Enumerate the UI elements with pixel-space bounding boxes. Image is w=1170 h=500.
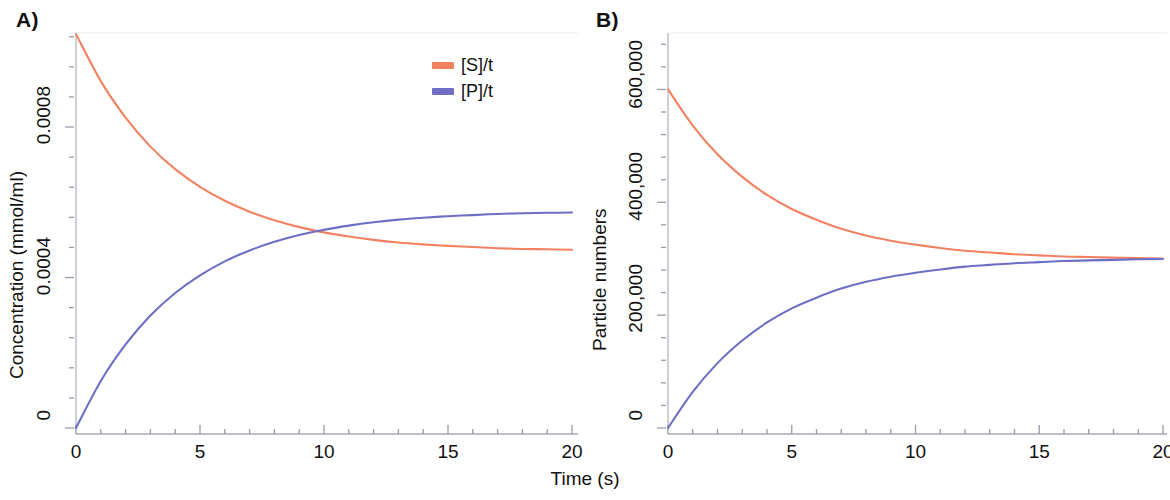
b-xtick-15: 15	[1009, 441, 1069, 463]
figure-container: A) Concentration (mmol/ml) 0 0.0004 0.00…	[0, 0, 1170, 500]
panel-a-plot-area	[0, 0, 585, 500]
panel-b-y-ticks	[657, 44, 666, 428]
panel-a-curve-product	[76, 212, 572, 428]
legend-label-p: [P]/t	[461, 82, 493, 100]
a-xtick-5: 5	[170, 441, 230, 463]
legend-item-p[interactable]: [P]/t	[432, 78, 493, 104]
legend-item-s[interactable]: [S]/t	[432, 52, 493, 78]
b-xtick-5: 5	[762, 441, 822, 463]
panel-b-x-ticks	[668, 425, 1163, 434]
b-xtick-20: 20	[1133, 441, 1170, 463]
legend-swatch-p	[432, 88, 454, 95]
panel-a-y-ticks	[65, 37, 74, 428]
a-xtick-10: 10	[294, 441, 354, 463]
panel-b-svg	[585, 0, 1170, 500]
panel-a: A) Concentration (mmol/ml) 0 0.0004 0.00…	[0, 0, 585, 500]
legend-swatch-s	[432, 62, 454, 69]
panel-a-legend: [S]/t [P]/t	[432, 52, 493, 104]
b-xtick-10: 10	[886, 441, 946, 463]
a-xtick-0: 0	[46, 441, 106, 463]
panel-b: B) Particle numbers 0 200,000 400,000 60…	[585, 0, 1170, 500]
panel-a-svg	[0, 0, 585, 500]
a-xtick-15: 15	[418, 441, 478, 463]
panel-b-curve-substrate	[668, 89, 1163, 258]
b-xtick-0: 0	[638, 441, 698, 463]
legend-label-s: [S]/t	[461, 56, 493, 74]
panel-b-curve-product	[668, 259, 1163, 428]
panel-a-x-ticks	[76, 425, 572, 434]
shared-x-axis-title: Time (s)	[0, 468, 1170, 490]
panel-a-curve-substrate	[76, 34, 572, 250]
panel-b-plot-area	[585, 0, 1170, 500]
